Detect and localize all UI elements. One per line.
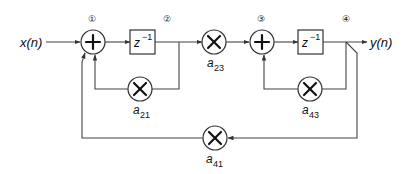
wire-a43-adder3 bbox=[264, 55, 298, 89]
adder-3 bbox=[250, 30, 274, 54]
node-marker-1: ① bbox=[88, 14, 96, 24]
a41-label-base: a bbox=[206, 152, 213, 166]
node-marker-2: ② bbox=[163, 14, 171, 24]
delay-2-base: z bbox=[301, 36, 308, 50]
block-diagram: x(n) ① z −1 ② a 21 a 23 ③ bbox=[0, 0, 412, 174]
delay-1-base: z bbox=[133, 36, 140, 50]
a43-label-base: a bbox=[302, 103, 309, 117]
a21-label-sub: 21 bbox=[140, 110, 150, 120]
node-marker-4: ④ bbox=[342, 14, 350, 24]
wire-branch4-a41 bbox=[228, 42, 357, 138]
wire-branch4-a43 bbox=[322, 42, 346, 89]
a41-label-sub: 41 bbox=[213, 159, 223, 169]
multiplier-a23 bbox=[202, 30, 226, 54]
adder-1 bbox=[81, 30, 105, 54]
node-marker-3: ③ bbox=[257, 14, 265, 24]
delay-block-1: z −1 bbox=[130, 30, 155, 54]
multiplier-a41 bbox=[203, 126, 227, 150]
delay-2-exp: −1 bbox=[310, 32, 320, 42]
a23-label-sub: 23 bbox=[214, 63, 224, 73]
wire-branch2-a21 bbox=[152, 42, 179, 89]
output-label: y(n) bbox=[369, 35, 392, 50]
wire-a21-adder1 bbox=[95, 55, 128, 89]
delay-1-exp: −1 bbox=[142, 32, 152, 42]
input-label: x(n) bbox=[19, 35, 42, 50]
a21-label-base: a bbox=[133, 103, 140, 117]
a43-label-sub: 43 bbox=[309, 110, 319, 120]
multiplier-a43 bbox=[298, 77, 322, 101]
a23-label-base: a bbox=[207, 56, 214, 70]
delay-block-2: z −1 bbox=[298, 30, 323, 54]
multiplier-a21 bbox=[128, 77, 152, 101]
